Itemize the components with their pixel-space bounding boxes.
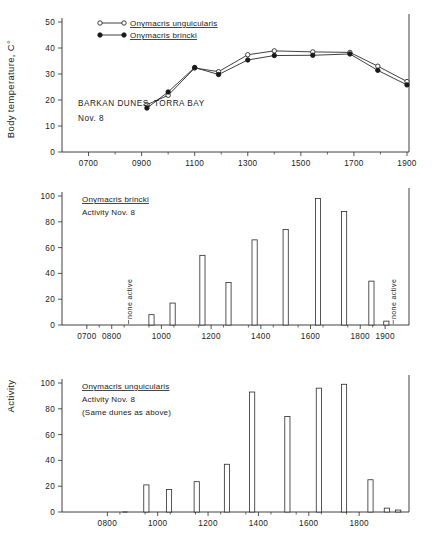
top-datapoint-1 xyxy=(348,52,352,56)
bottom-bar xyxy=(224,464,229,512)
middle-y-ticklabel: 20 xyxy=(45,295,55,304)
middle-x-ticklabel: 1900 xyxy=(375,332,395,341)
legend-label-brincki: Onymacris brincki xyxy=(130,31,197,40)
middle-x-ticklabel: 1200 xyxy=(201,332,221,341)
middle-x-ticklabel: 0800 xyxy=(102,332,122,341)
middle-x-ticklabel: 1000 xyxy=(152,332,172,341)
figure-container: 010203040500700090011001300150017001900B… xyxy=(0,0,443,549)
bottom-x-ticklabel: 1800 xyxy=(349,519,369,528)
bottom-y-ticklabel: 60 xyxy=(45,431,55,440)
bottom-y-ticklabel: 100 xyxy=(40,379,55,388)
middle-none-active-label: none active xyxy=(126,279,133,319)
top-datapoint-0 xyxy=(272,49,276,53)
middle-y-ticklabel: 80 xyxy=(45,218,55,227)
top-x-ticklabel: 1500 xyxy=(291,159,311,168)
bottom-y-ticklabel: 40 xyxy=(45,456,55,465)
top-y-ticklabel: 30 xyxy=(45,70,55,79)
middle-bar xyxy=(315,199,320,325)
bottom-bar xyxy=(316,388,321,512)
top-y-ticklabel: 20 xyxy=(45,96,55,105)
top-datapoint-1 xyxy=(166,90,170,94)
top-x-ticklabel: 1700 xyxy=(344,159,364,168)
bottom-x-ticklabel: 1600 xyxy=(299,519,319,528)
bottom-bar xyxy=(396,510,401,512)
bottom-x-ticklabel: 1000 xyxy=(148,519,168,528)
bottom-bar xyxy=(384,508,389,512)
top-y-axis-title: Body temperature, C° xyxy=(5,40,16,138)
top-datapoint-1 xyxy=(376,68,380,72)
middle-bar xyxy=(283,230,288,325)
middle-panel: 0204060801000700080010001200140016001800… xyxy=(40,188,409,341)
bottom-y-ticklabel: 80 xyxy=(45,405,55,414)
top-datapoint-1 xyxy=(246,58,250,62)
top-annotation-date: Nov. 8 xyxy=(78,114,104,123)
top-series-line-0 xyxy=(147,51,407,105)
middle-bar xyxy=(149,315,154,325)
middle-none-active-label: none active xyxy=(390,279,397,319)
top-datapoint-1 xyxy=(311,53,315,57)
middle-y-ticklabel: 100 xyxy=(40,192,55,201)
top-x-ticklabel: 1300 xyxy=(238,159,258,168)
bottom-x-ticklabel: 0800 xyxy=(98,519,118,528)
scientific-figure: 010203040500700090011001300150017001900B… xyxy=(0,0,443,549)
bottom-bar xyxy=(341,384,346,512)
middle-y-ticklabel: 40 xyxy=(45,269,55,278)
top-x-ticklabel: 1900 xyxy=(397,159,417,168)
activity-y-axis-title: Activity xyxy=(5,380,16,413)
bottom-bar xyxy=(368,480,373,512)
top-datapoint-1 xyxy=(216,72,220,76)
top-y-ticklabel: 50 xyxy=(45,18,55,27)
top-datapoint-1 xyxy=(192,65,196,69)
top-panel: 010203040500700090011001300150017001900B… xyxy=(5,14,417,168)
legend-marker-unguicularis-right xyxy=(122,21,126,25)
middle-bar xyxy=(200,255,205,325)
legend-marker-brincki-right xyxy=(122,33,126,37)
bottom-panel: 020406080100080010001200140016001800Onym… xyxy=(40,375,409,528)
bottom-title: Onymacris unguicularis xyxy=(82,382,170,391)
top-y-ticklabel: 0 xyxy=(50,148,55,157)
top-x-ticklabel: 0900 xyxy=(132,159,152,168)
top-x-ticklabel: 0700 xyxy=(79,159,99,168)
top-datapoint-1 xyxy=(272,53,276,57)
middle-bar xyxy=(226,282,231,325)
middle-x-ticklabel: 0700 xyxy=(77,332,97,341)
activity-axis-title-group: Activity xyxy=(5,380,16,413)
bottom-bar xyxy=(194,482,199,512)
legend-marker-brincki-left xyxy=(98,33,102,37)
middle-bar xyxy=(170,303,175,325)
middle-bar xyxy=(369,281,374,325)
middle-bar xyxy=(341,211,346,325)
bottom-y-ticklabel: 20 xyxy=(45,482,55,491)
bottom-subtitle: Activity Nov. 8 xyxy=(82,395,135,404)
legend-label-unguicularis: Onymacris unguicularis xyxy=(130,19,218,28)
bottom-bar xyxy=(285,417,290,512)
bottom-bar xyxy=(250,392,255,512)
middle-title: Onymacris brincki xyxy=(82,195,149,204)
legend-marker-unguicularis-left xyxy=(98,21,102,25)
middle-x-ticklabel: 1400 xyxy=(251,332,271,341)
top-annotation-location: BARKAN DUNES, TORRA BAY xyxy=(78,99,205,108)
middle-subtitle: Activity Nov. 8 xyxy=(82,208,135,217)
bottom-y-ticklabel: 0 xyxy=(50,508,55,517)
top-x-ticklabel: 1100 xyxy=(185,159,204,168)
middle-x-ticklabel: 1800 xyxy=(351,332,371,341)
top-y-ticklabel: 10 xyxy=(45,122,55,131)
middle-y-ticklabel: 60 xyxy=(45,244,55,253)
bottom-note: (Same dunes as above) xyxy=(82,408,171,417)
bottom-x-ticklabel: 1400 xyxy=(249,519,269,528)
bottom-bar xyxy=(144,485,149,512)
top-datapoint-0 xyxy=(246,53,250,57)
middle-x-ticklabel: 1600 xyxy=(301,332,321,341)
top-datapoint-1 xyxy=(405,83,409,87)
bottom-x-ticklabel: 1200 xyxy=(198,519,218,528)
middle-bar xyxy=(384,321,389,325)
top-y-ticklabel: 40 xyxy=(45,44,55,53)
middle-bar xyxy=(252,240,257,325)
middle-y-ticklabel: 0 xyxy=(50,321,55,330)
bottom-bar xyxy=(166,489,171,512)
